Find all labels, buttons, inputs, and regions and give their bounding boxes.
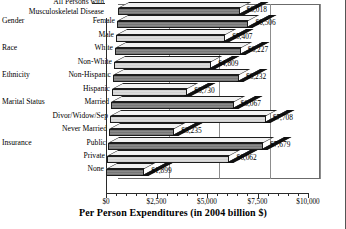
bar-face	[113, 75, 239, 82]
x-tick-minor	[167, 193, 168, 196]
bar-face	[118, 8, 240, 15]
x-tick-minor	[237, 193, 238, 196]
x-tick-minor	[116, 193, 117, 196]
bar-value-label: $6,018	[247, 6, 267, 14]
bar-top-face	[116, 29, 237, 35]
bar-face	[114, 62, 211, 69]
x-tick-minor	[227, 193, 228, 196]
x-axis-title: Per Person Expenditures (in 2004 billion…	[0, 207, 346, 218]
category-label: Private	[83, 150, 105, 162]
group-label: Insurance	[2, 137, 32, 149]
bar	[110, 116, 266, 123]
bar	[118, 8, 240, 15]
plot-area: $1,899$6,062$7,679$3,235$7,708$6,067$3,7…	[106, 4, 346, 200]
bar-top-face	[113, 69, 250, 75]
bar-value-label: $6,067	[241, 100, 261, 108]
category-label: Public	[87, 137, 106, 149]
bar-top-face	[115, 42, 252, 48]
bar-face	[112, 89, 187, 96]
bar-value-label: $7,679	[270, 141, 290, 149]
x-tick-label: $10,000	[283, 198, 333, 206]
bar-face	[116, 35, 225, 42]
bar-top-face	[107, 150, 241, 156]
x-tick-minor	[187, 193, 188, 196]
bar	[107, 156, 229, 163]
bar-value-label: $3,235	[181, 127, 201, 135]
bar-top-face	[111, 96, 245, 102]
y-axis-line	[106, 18, 107, 193]
bar-top-face	[108, 137, 274, 143]
bar-value-label: $1,899	[151, 167, 171, 175]
bar	[113, 75, 239, 82]
bar-value-label: $6,506	[255, 19, 275, 27]
x-tick-minor	[177, 193, 178, 196]
bar-top-face	[112, 83, 199, 89]
group-label: Gender	[2, 15, 24, 27]
bar-value-label: $3,730	[194, 87, 214, 95]
x-tick-minor	[247, 193, 248, 196]
category-label: Non-Hispanic	[68, 69, 111, 81]
bar-top-face	[117, 15, 260, 21]
bar-face	[115, 48, 241, 55]
bar-top-face	[109, 123, 186, 129]
category-label: None	[88, 163, 104, 175]
x-tick-minor	[136, 193, 137, 196]
x-tick-label: $2,500	[132, 198, 182, 206]
bar	[115, 48, 241, 55]
x-tick-label: $7,500	[233, 198, 283, 206]
bar-face	[110, 116, 266, 123]
bar-value-label: $5,407	[232, 33, 252, 41]
gridline	[320, 4, 321, 179]
bar-face	[107, 156, 229, 163]
x-tick-minor	[217, 193, 218, 196]
bar-face	[108, 143, 263, 150]
x-tick-minor	[197, 193, 198, 196]
bar-top-face	[110, 110, 277, 116]
category-label: Divor/Widow/Sep	[53, 110, 108, 122]
x-tick-minor	[268, 193, 269, 196]
x-tick-label: $5,000	[182, 198, 232, 206]
x-tick-minor	[126, 193, 127, 196]
bar	[109, 129, 174, 136]
group-label: Ethnicity	[2, 69, 30, 81]
bar-face	[111, 102, 234, 109]
bar	[114, 62, 211, 69]
bar-value-label: $6,232	[246, 73, 266, 81]
group-label: Marital Status	[2, 96, 45, 108]
expenditures-bar-chart: All Persons withMusculoskeletal DiseaseG…	[0, 0, 346, 229]
bar	[108, 143, 263, 150]
bar	[117, 21, 248, 28]
bar-face	[109, 129, 174, 136]
bar-value-label: $4,809	[218, 60, 238, 68]
bar	[111, 102, 234, 109]
x-tick-minor	[146, 193, 147, 196]
category-label-column: All Persons withMusculoskeletal DiseaseG…	[0, 0, 106, 200]
bar-value-label: $7,708	[273, 114, 293, 122]
group-label: Race	[2, 42, 17, 54]
category-label: Never Married	[62, 123, 107, 135]
label-leader-line	[92, 3, 105, 4]
bar-value-label: $6,227	[248, 46, 268, 54]
bar-face	[117, 21, 248, 28]
x-tick-minor	[288, 193, 289, 196]
bar	[112, 89, 187, 96]
x-tick-label: $0	[81, 198, 131, 206]
bar	[116, 35, 225, 42]
bar-top-face	[114, 56, 222, 62]
bar	[106, 169, 144, 176]
gridline	[270, 4, 271, 179]
bar-top-face	[118, 2, 251, 8]
x-tick-minor	[278, 193, 279, 196]
bar-value-label: $6,062	[236, 154, 256, 162]
x-tick-minor	[298, 193, 299, 196]
bar-face	[106, 169, 144, 176]
